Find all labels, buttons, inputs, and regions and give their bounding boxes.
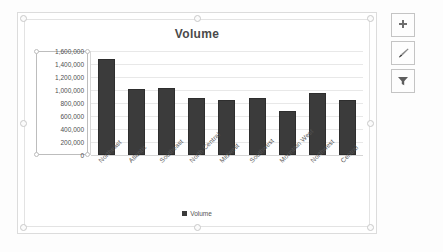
chart-filters-button[interactable] bbox=[391, 69, 415, 93]
bar-series[interactable] bbox=[91, 51, 363, 155]
selection-handle-bottom-right[interactable] bbox=[367, 224, 374, 231]
axis-handle-top-left[interactable] bbox=[34, 49, 39, 54]
selection-handle-bottom-center[interactable] bbox=[194, 224, 201, 231]
y-axis-tick: 1,200,000 bbox=[55, 75, 84, 82]
legend-swatch-volume bbox=[182, 211, 187, 216]
chart-title[interactable]: Volume bbox=[18, 27, 376, 41]
chart-object[interactable]: Volume 1,600,0001,400,0001,200,0001,000,… bbox=[17, 12, 377, 234]
chart-quick-buttons bbox=[391, 13, 419, 97]
brush-icon bbox=[397, 47, 410, 60]
y-axis-tick: 0 bbox=[80, 153, 84, 160]
selection-handle-middle-right[interactable] bbox=[367, 120, 374, 127]
plus-icon bbox=[397, 19, 409, 31]
axis-handle-bottom-right[interactable] bbox=[85, 152, 90, 157]
y-axis-tick: 200,000 bbox=[61, 140, 85, 147]
y-axis-tick: 400,000 bbox=[61, 127, 85, 134]
selection-handle-top-right[interactable] bbox=[367, 15, 374, 22]
axis-handle-top-right[interactable] bbox=[85, 49, 90, 54]
selection-handle-middle-left[interactable] bbox=[20, 120, 27, 127]
axis-handle-bottom-left[interactable] bbox=[34, 152, 39, 157]
selection-handle-top-left[interactable] bbox=[20, 15, 27, 22]
chart-styles-button[interactable] bbox=[391, 41, 415, 65]
funnel-icon bbox=[397, 75, 409, 87]
chart-legend[interactable]: Volume bbox=[18, 209, 376, 217]
selection-handle-bottom-left[interactable] bbox=[20, 224, 27, 231]
y-axis-tick: 1,600,000 bbox=[55, 49, 84, 56]
y-axis-tick: 600,000 bbox=[61, 114, 85, 121]
y-axis-tick: 1,000,000 bbox=[55, 88, 84, 95]
category-axis[interactable]: NortheastAtlanticSoutheastNorth CentralM… bbox=[90, 159, 362, 205]
chart-elements-button[interactable] bbox=[391, 13, 415, 37]
value-axis[interactable]: 1,600,0001,400,0001,200,0001,000,000800,… bbox=[36, 51, 88, 155]
y-axis-tick: 800,000 bbox=[61, 101, 85, 108]
plot-area[interactable] bbox=[90, 51, 363, 155]
bar[interactable] bbox=[98, 59, 115, 155]
y-axis-tick: 1,400,000 bbox=[55, 62, 84, 69]
legend-label-volume: Volume bbox=[190, 210, 212, 217]
selection-handle-top-center[interactable] bbox=[194, 15, 201, 22]
